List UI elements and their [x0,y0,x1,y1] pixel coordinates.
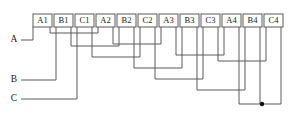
coil-group-b3[interactable]: B3 [180,14,199,27]
wire-c4-star [262,27,281,104]
wire-phase-c-lead [21,27,77,99]
coil-group-a4[interactable]: A4 [222,14,241,27]
wire-b2-b3 [134,27,182,68]
coil-label: C3 [206,15,216,25]
star-point-junction-dot [260,102,264,106]
coil-label: C1 [80,15,90,25]
wire-a4-star [239,27,262,104]
coil-label: C4 [269,15,280,25]
coil-group-b2[interactable]: B2 [117,14,136,27]
wire-c3-c4 [218,27,266,61]
coil-group-a1[interactable]: A1 [33,14,52,27]
coil-group-c2[interactable]: C2 [138,14,157,27]
winding-diagram-canvas: A1 B1 C1 A2 B2 C2 [0,0,289,120]
coil-group-c3[interactable]: C3 [201,14,220,27]
coil-group-c4[interactable]: C4 [264,14,283,27]
coil-label: B4 [248,15,259,25]
coil-label: A1 [37,15,47,25]
wire-a3-a4 [176,27,224,55]
wire-c1-c2 [92,27,140,57]
phase-terminal-label-a: A [11,34,18,44]
coil-label: C2 [143,15,153,25]
coil-label: A4 [226,15,237,25]
coil-group-b1[interactable]: B1 [54,14,73,27]
coil-group-a2[interactable]: A2 [96,14,115,27]
coil-label: B2 [122,15,132,25]
coil-label: B1 [59,15,69,25]
phase-terminal-label-c: C [11,93,17,103]
junction-layer [260,102,264,106]
wire-phase-a-lead [21,27,33,40]
winding-schematic: A1 B1 C1 A2 B2 C2 [0,0,289,120]
coil-label: A3 [163,15,173,25]
coil-label: B3 [185,15,195,25]
wire-phase-b-lead [21,27,56,80]
wire-a1-a2 [50,27,98,33]
wire-b1-b2 [71,27,119,46]
phase-terminal-layer: A B C [11,34,18,103]
wire-b3-b4 [197,27,245,90]
wire-layer [21,27,281,104]
coil-group-c1[interactable]: C1 [75,14,94,27]
wire-a2-a3 [113,27,161,44]
wire-c2-c3 [155,27,203,79]
phase-terminal-label-b: B [11,74,17,84]
coil-group-b4[interactable]: B4 [243,14,262,27]
coil-group-a3[interactable]: A3 [159,14,178,27]
coil-label: A2 [100,15,110,25]
coil-group-layer: A1 B1 C1 A2 B2 C2 [33,14,283,27]
